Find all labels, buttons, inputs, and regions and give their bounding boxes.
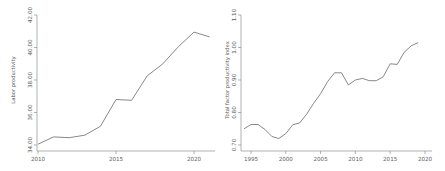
labor-productivity-chart: 34.0036.0038.0040.0042.00201020152020Lab… (0, 0, 222, 171)
x-tick-label: 2010 (348, 156, 363, 162)
y-axis-title: Total factor productivity index (224, 41, 231, 119)
x-tick-label: 2015 (109, 156, 124, 162)
data-series-line (244, 43, 418, 139)
y-tick-label: 1.00 (231, 41, 237, 54)
y-tick-label: 38.00 (27, 72, 33, 88)
x-tick-label: 2010 (31, 156, 46, 162)
total-factor-productivity-plot: 0.700.800.901.001.1019952000200520102015… (222, 0, 444, 171)
x-tick-label: 2000 (279, 156, 294, 162)
x-tick-label: 2020 (418, 156, 433, 162)
x-tick-label: 1995 (244, 156, 259, 162)
y-tick-label: 42.00 (27, 7, 33, 23)
y-tick-label: 34.00 (27, 137, 33, 153)
y-tick-label: 36.00 (27, 104, 33, 120)
y-tick-label: 40.00 (27, 39, 33, 55)
x-tick-label: 2005 (313, 156, 328, 162)
y-tick-label: 0.70 (231, 138, 237, 151)
y-tick-label: 1.10 (231, 8, 237, 21)
axis-lines (37, 15, 215, 151)
x-tick-label: 2015 (383, 156, 398, 162)
axis-lines (241, 15, 432, 151)
y-tick-label: 0.80 (231, 106, 237, 119)
y-axis-title: Labor productivity (10, 56, 17, 103)
total-factor-productivity-chart: 0.700.800.901.001.1019952000200520102015… (222, 0, 444, 171)
labor-productivity-plot: 34.0036.0038.0040.0042.00201020152020Lab… (0, 0, 222, 171)
x-tick-label: 2020 (187, 156, 202, 162)
productivity-figure: 34.0036.0038.0040.0042.00201020152020Lab… (0, 0, 445, 171)
y-tick-label: 0.90 (231, 73, 237, 86)
data-series-line (38, 32, 210, 144)
